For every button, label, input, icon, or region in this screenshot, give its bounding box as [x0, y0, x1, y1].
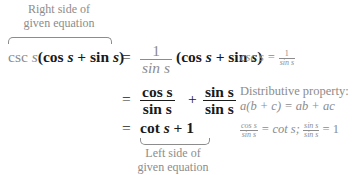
right-side-label-line2: given equation: [8, 16, 110, 30]
equals-sign-2: =: [122, 82, 131, 116]
bottom-brace: [140, 138, 210, 145]
equals-sign-3: =: [122, 118, 131, 138]
note-distributive: Distributive property: a(b + c) = ab + a…: [240, 84, 349, 114]
result-expr: cot s + 1: [140, 118, 194, 138]
left-side-label-line2: given equation: [122, 160, 224, 174]
note-csc-definition: csc s = 1sin s: [240, 47, 295, 67]
note-distributive-formula: a(b + c) = ab + ac: [240, 99, 349, 114]
equation-line-1: csc s(cos s + sin s): [8, 40, 124, 74]
fraction-cos-over-sin: cos ssin s: [140, 84, 175, 117]
lhs-paren-expr: (cos s + sin s): [38, 48, 124, 65]
reciprocal-fraction: 1sin s: [140, 43, 172, 76]
left-side-label: Left side of given equation: [122, 146, 224, 174]
equals-sign-1: =: [122, 40, 131, 74]
csc-term: csc s: [8, 48, 38, 65]
note-distributive-title: Distributive property:: [240, 84, 349, 99]
fraction-sin-over-sin: sin ssin s: [203, 84, 236, 117]
note-quotient-identities: cos ssin s = cot s; sin ssin s = 1: [240, 119, 339, 139]
right-side-label: Right side of given equation: [8, 2, 110, 30]
right-side-label-line1: Right side of: [8, 2, 110, 16]
plus-sign: +: [188, 82, 197, 116]
left-side-label-line1: Left side of: [122, 146, 224, 160]
